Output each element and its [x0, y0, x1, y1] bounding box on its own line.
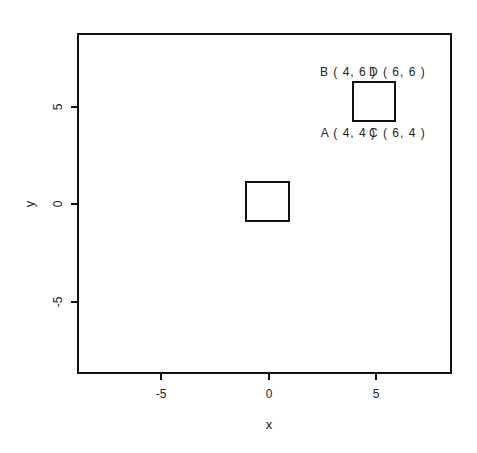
- y-tick-label: -5: [51, 296, 65, 307]
- center-square: [246, 182, 289, 221]
- chart: -5 0 5 x 5 0 -5 y B ( 4, 6 ) D ( 6, 6 ) …: [0, 0, 477, 453]
- label-D: D ( 6, 6 ): [369, 65, 426, 79]
- y-axis-label: y: [22, 200, 37, 207]
- label-C: C ( 6, 4 ): [369, 126, 426, 140]
- x-tick-label: 0: [266, 387, 273, 401]
- label-B: B ( 4, 6 ): [320, 65, 376, 79]
- y-axis: 5 0 -5 y: [22, 103, 78, 307]
- y-tick-label: 0: [51, 200, 65, 207]
- x-tick-label: -5: [156, 387, 167, 401]
- corner-square: [353, 82, 395, 121]
- x-axis-label: x: [266, 417, 273, 432]
- label-A: A ( 4, 4 ): [321, 126, 376, 140]
- x-axis: -5 0 5 x: [156, 373, 380, 432]
- x-tick-label: 5: [373, 387, 380, 401]
- y-tick-label: 5: [51, 103, 65, 110]
